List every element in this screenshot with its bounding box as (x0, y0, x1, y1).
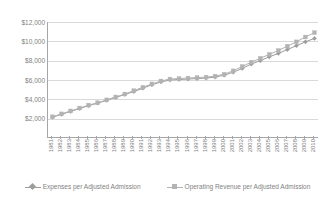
diamond-marker-icon (25, 183, 41, 192)
data-point-marker (114, 95, 118, 99)
x-axis-tick-label: 1998 (202, 139, 208, 152)
x-axis-tick-label: 1999 (211, 139, 217, 152)
data-point-marker (195, 76, 199, 80)
x-axis-tick-label: 1981 (48, 139, 54, 152)
data-point-marker (249, 60, 253, 64)
x-axis-tick-label: 2003 (247, 139, 253, 152)
legend-item[interactable]: Operating Revenue per Adjusted Admission (167, 183, 311, 192)
y-axis: $2,000$4,000$6,000$8,000$10,000$12,000 (0, 0, 45, 202)
x-axis-tick-label: 1990 (129, 139, 135, 152)
y-axis-tick-label: $6,000 (1, 77, 45, 84)
y-axis-tick-label: $10,000 (1, 38, 45, 45)
data-point-marker (141, 85, 145, 89)
y-axis-tick-label: $8,000 (1, 57, 45, 64)
data-point-marker (258, 56, 262, 60)
x-axis-tick-label: 1991 (138, 139, 144, 152)
x-axis-tick-label: 2000 (220, 139, 226, 152)
legend-label: Operating Revenue per Adjusted Admission (185, 183, 311, 191)
x-axis-tick-label: 2008 (292, 139, 298, 152)
data-point-marker (294, 44, 298, 48)
x-axis-tick-label: 1985 (84, 139, 90, 152)
x-axis-tick-label: 1995 (174, 139, 180, 152)
x-axis-tick-label: 1982 (57, 139, 63, 152)
x-axis-tick-label: 1984 (75, 139, 81, 152)
x-axis-tick-label: 2001 (229, 139, 235, 152)
data-point-marker (312, 36, 316, 40)
x-axis-tick-label: 1986 (93, 139, 99, 152)
x-axis-tick-label: 1987 (102, 139, 108, 152)
data-point-marker (213, 74, 217, 78)
x-axis-tick-label: 1994 (165, 139, 171, 152)
data-point-marker (51, 115, 55, 119)
x-axis-tick-label: 1992 (147, 139, 153, 152)
x-axis-tick-label: 2005 (265, 139, 271, 152)
data-point-marker (159, 79, 163, 83)
chart-legend: Expenses per Adjusted AdmissionOperating… (0, 180, 335, 194)
data-point-marker (304, 35, 308, 39)
data-point-marker (105, 98, 109, 102)
x-axis-tick-label: 1989 (120, 139, 126, 152)
square-marker-icon (167, 183, 183, 192)
y-axis-tick-label: $2,000 (1, 115, 45, 122)
x-axis-tick-label: 2007 (283, 139, 289, 152)
data-series (51, 31, 317, 119)
x-axis-tick-label: 2006 (274, 139, 280, 152)
chart-container: $2,000$4,000$6,000$8,000$10,000$12,000 1… (0, 0, 335, 202)
data-point-marker (123, 92, 127, 96)
x-axis-tick-label: 1983 (66, 139, 72, 152)
x-axis: 1981198219831984198519861987198819891990… (47, 139, 318, 173)
data-point-marker (69, 109, 73, 113)
x-axis-tick-label: 1988 (111, 139, 117, 152)
data-point-marker (60, 112, 64, 116)
data-point-marker (313, 31, 317, 35)
data-point-marker (150, 82, 154, 86)
series-line (53, 33, 315, 117)
data-point-marker (267, 52, 271, 56)
data-point-marker (240, 65, 244, 69)
data-point-marker (78, 106, 82, 110)
x-axis-tick-label: 1993 (156, 139, 162, 152)
data-point-marker (295, 40, 299, 44)
x-axis-tick-label: 1997 (193, 139, 199, 152)
data-point-marker (285, 44, 289, 48)
legend-item[interactable]: Expenses per Adjusted Admission (25, 183, 141, 192)
data-point-marker (186, 76, 190, 80)
data-point-marker (303, 40, 307, 44)
y-axis-tick-label: $12,000 (1, 19, 45, 26)
data-point-marker (204, 75, 208, 79)
y-axis-tick-label: $4,000 (1, 96, 45, 103)
x-axis-tick-label: 2004 (256, 139, 262, 152)
legend-label: Expenses per Adjusted Admission (43, 183, 141, 191)
data-point-marker (87, 103, 91, 107)
series-layer (48, 22, 319, 138)
x-axis-tick-label: 2009 (301, 139, 307, 152)
data-point-marker (222, 72, 226, 76)
x-axis-tick-label: 1996 (184, 139, 190, 152)
x-axis-tick-label: 2002 (238, 139, 244, 152)
plot-area (47, 22, 318, 138)
data-point-marker (168, 77, 172, 81)
x-axis-tick-label: 2010 (310, 139, 316, 152)
data-point-marker (231, 69, 235, 73)
data-point-marker (96, 101, 100, 105)
data-point-marker (276, 49, 280, 53)
data-point-marker (177, 77, 181, 81)
data-point-marker (132, 89, 136, 93)
